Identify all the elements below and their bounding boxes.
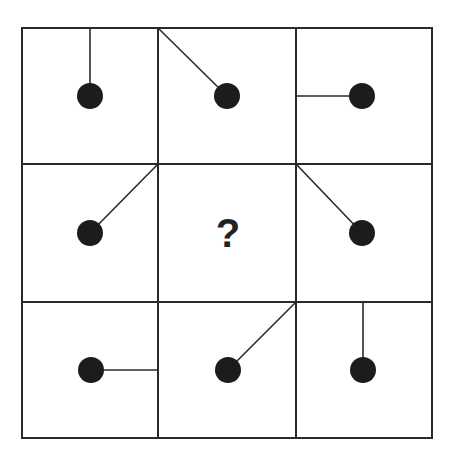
cell-2-2-dot [350,357,376,383]
cell-0-1-dot [214,83,240,109]
puzzle-grid: ? [0,0,456,462]
cell-0-1-line [158,28,227,96]
cell-1-0-line [90,164,158,233]
cell-0-2-dot [349,83,375,109]
cell-2-1-dot [215,357,241,383]
connector-lines [90,28,363,370]
cell-1-0-dot [77,220,103,246]
cell-1-2-line [296,164,362,233]
cell-2-0-dot [78,357,104,383]
cell-2-1-line [228,302,296,370]
missing-cell-question-mark: ? [216,211,240,255]
cell-0-0-dot [77,83,103,109]
cell-1-2-dot [349,220,375,246]
